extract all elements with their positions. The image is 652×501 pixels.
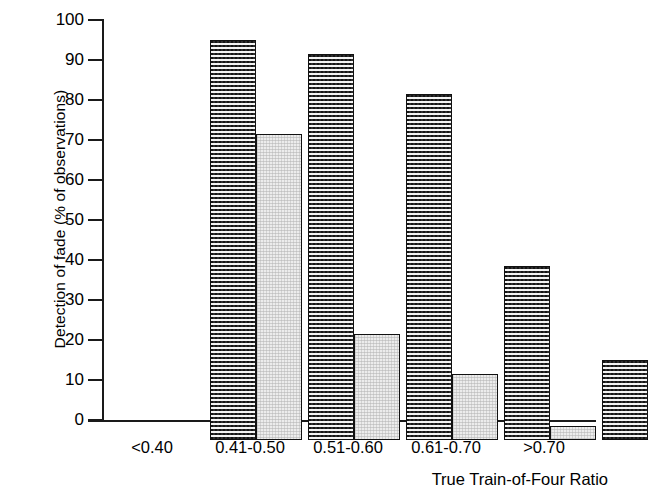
x-axis-title: True Train-of-Four Ratio	[432, 470, 608, 489]
y-axis-tick-mark	[88, 299, 102, 301]
y-axis-tick-label: 60	[0, 171, 84, 188]
y-axis-tick-label: 40	[0, 251, 84, 268]
bar-group	[406, 40, 498, 440]
y-axis-tick-label: 20	[0, 331, 84, 348]
y-axis-tick-label: 30	[0, 291, 84, 308]
bar	[354, 334, 400, 440]
bar	[256, 134, 302, 440]
y-axis-tick-mark	[88, 379, 102, 381]
y-axis-tick-label: 50	[0, 211, 84, 228]
y-axis-tick-mark	[88, 19, 102, 21]
y-axis-tick-mark	[88, 259, 102, 261]
y-axis-tick-mark	[88, 59, 102, 61]
y-axis-tick-mark	[88, 139, 102, 141]
bar	[210, 40, 256, 440]
y-axis-tick-label: 0	[0, 411, 84, 428]
bar-group	[504, 40, 596, 440]
y-axis-tick-labels: 1009080706050403020100	[0, 0, 84, 501]
y-axis-tick-mark	[88, 99, 102, 101]
y-axis-tick-label: 80	[0, 91, 84, 108]
bar	[602, 360, 648, 440]
bar	[504, 266, 550, 440]
bar-group	[308, 40, 400, 440]
y-axis-tick-mark	[88, 419, 102, 421]
y-axis-tick-label: 10	[0, 371, 84, 388]
y-axis-tick-mark	[88, 219, 102, 221]
y-axis-tick-label: 100	[0, 11, 84, 28]
y-axis-tick-label: 70	[0, 131, 84, 148]
bar-group	[210, 40, 302, 440]
x-axis-category-label: >0.70	[478, 438, 610, 457]
bar	[308, 54, 354, 440]
bar	[452, 374, 498, 440]
y-axis-tick-mark	[88, 179, 102, 181]
bar-group	[602, 40, 652, 440]
plot-area	[104, 20, 596, 420]
y-axis-tick-mark	[88, 339, 102, 341]
y-axis-tick-label: 90	[0, 51, 84, 68]
bar	[406, 94, 452, 440]
